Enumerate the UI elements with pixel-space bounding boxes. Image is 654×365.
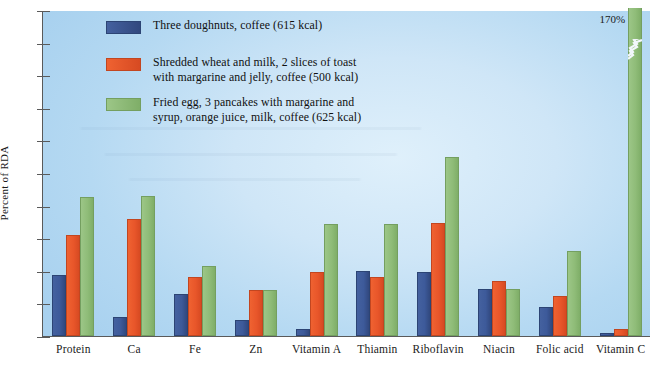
y-tick-mark (37, 207, 50, 208)
bar (431, 223, 445, 336)
clipped-bar-value-label: 170% (600, 13, 626, 25)
bar (235, 320, 249, 336)
bar-chart: Percent of RDA 0102030405060708090100 Pr… (0, 0, 654, 365)
bar (384, 224, 398, 336)
bar (553, 296, 567, 336)
bar (600, 333, 614, 336)
bar (492, 281, 506, 336)
legend-item: Fried egg, 3 pancakes with margarine and… (106, 95, 406, 124)
bar-group (539, 11, 581, 336)
bar-group (417, 11, 459, 336)
bar (202, 266, 216, 336)
bar (249, 290, 263, 336)
legend-color-swatch (106, 21, 141, 34)
legend-label: Fried egg, 3 pancakes with margarine and… (153, 95, 406, 124)
y-tick-mark (37, 304, 50, 305)
bar (80, 197, 94, 336)
legend-color-swatch (106, 58, 141, 71)
legend-color-swatch (106, 98, 141, 111)
bar (539, 307, 553, 336)
bar (506, 289, 520, 336)
legend-item: Three doughnuts, coffee (615 kcal) (106, 18, 406, 44)
legend-item: Shredded wheat and milk, 2 slices of toa… (106, 55, 406, 84)
bar (478, 289, 492, 336)
bar (567, 251, 581, 336)
bar (324, 224, 338, 336)
y-tick-mark (37, 11, 50, 12)
y-tick-mark (37, 141, 50, 142)
bar (445, 157, 459, 336)
bar (141, 196, 155, 336)
y-tick-mark (37, 44, 50, 45)
legend-label: Three doughnuts, coffee (615 kcal) (153, 18, 406, 33)
bar (66, 235, 80, 336)
y-tick-mark (37, 76, 50, 77)
axis-break-icon (628, 39, 642, 65)
bar (174, 294, 188, 336)
bar (310, 272, 324, 336)
bar (188, 277, 202, 336)
x-tick-label: Vitamin C (556, 343, 654, 355)
y-tick-mark (37, 174, 50, 175)
bar (127, 219, 141, 336)
bar (370, 277, 384, 336)
bar (614, 329, 628, 336)
y-tick-mark (37, 272, 50, 273)
bar (417, 272, 431, 336)
bar (52, 275, 66, 336)
y-tick-mark (37, 239, 50, 240)
y-tick-mark (37, 337, 50, 338)
bar (356, 271, 370, 336)
y-tick-mark (37, 109, 50, 110)
bar (113, 317, 127, 336)
bar-group (52, 11, 94, 336)
bar-group (478, 11, 520, 336)
legend: Three doughnuts, coffee (615 kcal)Shredd… (106, 18, 406, 135)
bar (263, 290, 277, 336)
legend-label: Shredded wheat and milk, 2 slices of toa… (153, 55, 406, 84)
y-axis-title: Percent of RDA (0, 145, 10, 220)
bar (296, 329, 310, 336)
